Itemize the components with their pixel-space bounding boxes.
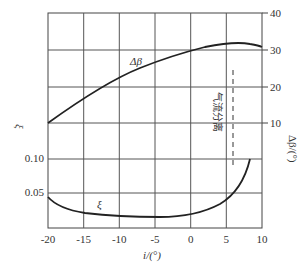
right-axis: 40 30 20 10 Δβ/(°) xyxy=(262,7,299,163)
x-tick-0: 0 xyxy=(188,233,194,245)
x-tick-10: 10 xyxy=(257,233,269,245)
x-tick-5: 5 xyxy=(224,233,230,245)
x-tick--10: -10 xyxy=(112,233,127,245)
left-tick-010: 0.10 xyxy=(25,152,45,164)
x-axis: -20 -15 -10 -5 0 5 10 i/(°) xyxy=(41,233,268,262)
right-axis-label: Δβ/(°) xyxy=(286,135,299,163)
dbeta-label: Δβ xyxy=(129,55,142,67)
xi-label: ξ xyxy=(97,198,102,211)
x-axis-label: i/(°) xyxy=(143,249,161,262)
right-tick-10: 10 xyxy=(270,117,282,129)
right-tick-40: 40 xyxy=(270,7,282,19)
x-tick--20: -20 xyxy=(41,233,56,245)
left-tick-005: 0.05 xyxy=(25,186,45,198)
separation-label: 气流分离 xyxy=(212,92,224,132)
xi-curve xyxy=(48,159,250,217)
right-tick-30: 30 xyxy=(270,44,282,56)
right-tick-20: 20 xyxy=(270,81,282,93)
x-tick--5: -5 xyxy=(150,233,160,245)
x-tick--15: -15 xyxy=(76,233,91,245)
left-axis: 0.10 0.05 ξ xyxy=(13,124,45,198)
chart: 40 30 20 10 Δβ/(°) 0.10 0.05 ξ -20 -15 -… xyxy=(0,0,303,271)
left-axis-label: ξ xyxy=(13,124,26,129)
